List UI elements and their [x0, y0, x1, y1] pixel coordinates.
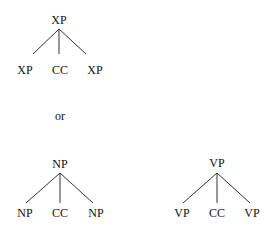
- tree-generic-root: XP: [51, 13, 67, 27]
- edge-right: [59, 29, 86, 54]
- tree-np-root: NP: [52, 157, 68, 171]
- edge-right: [217, 173, 250, 203]
- edge-left: [183, 173, 217, 203]
- tree-vp-child-conj: CC: [209, 206, 225, 220]
- tree-generic-child-left: XP: [17, 63, 33, 77]
- tree-vp-child-left: VP: [174, 206, 190, 220]
- edge-left: [33, 29, 59, 54]
- edge-left: [26, 173, 60, 203]
- tree-np-child-right: NP: [88, 206, 104, 220]
- tree-vp-root: VP: [209, 156, 225, 170]
- coordination-tree-diagram: XP XP CC XP or NP NP CC NP VP VP CC VP: [0, 0, 279, 230]
- tree-np-child-conj: CC: [52, 206, 68, 220]
- tree-generic: XP XP CC XP: [17, 13, 103, 77]
- or-connector: or: [55, 109, 65, 123]
- tree-vp-child-right: VP: [244, 206, 260, 220]
- tree-generic-child-right: XP: [87, 63, 103, 77]
- tree-verb-coordination: VP VP CC VP: [174, 156, 260, 220]
- tree-noun-coordination: NP NP CC NP: [17, 157, 104, 220]
- tree-generic-child-conj: CC: [52, 63, 68, 77]
- tree-np-child-left: NP: [17, 206, 33, 220]
- edge-right: [60, 173, 93, 203]
